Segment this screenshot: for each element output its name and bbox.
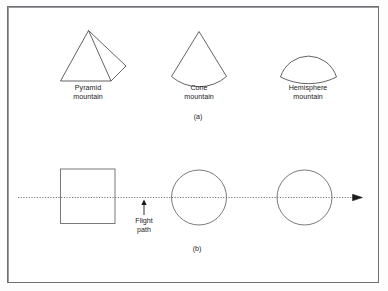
flight-path-label-line2: path bbox=[137, 226, 151, 234]
hemisphere-mountain-label: Hemispheremountain bbox=[264, 84, 352, 101]
hemisphere-mountain-label-line2: mountain bbox=[293, 93, 323, 101]
flight-path-label: Flightpath bbox=[121, 217, 167, 234]
pyramid-mountain-shape bbox=[61, 31, 127, 82]
hemisphere-mountain-label-line1: Hemisphere bbox=[289, 84, 328, 92]
flight-path-label-line1: Flight bbox=[135, 217, 152, 225]
pyramid-mountain-label: Pyramidmountain bbox=[49, 84, 127, 101]
pyramid-mountain-label-line2: mountain bbox=[73, 93, 103, 101]
cone-mountain-label: Conemountain bbox=[160, 84, 238, 101]
hemisphere-mountain-shape bbox=[281, 56, 337, 84]
cone-mountain-label-line2: mountain bbox=[184, 93, 214, 101]
figure-container: Pyramidmountain Conemountain Hemispherem… bbox=[0, 0, 388, 291]
panel-a-letter: (a) bbox=[178, 113, 218, 122]
square-footprint bbox=[61, 169, 116, 224]
flight-path-arrowhead bbox=[353, 194, 363, 201]
flight-path-pointer-arrow bbox=[141, 200, 146, 216]
pyramid-mountain-label-line1: Pyramid bbox=[75, 84, 101, 92]
cone-mountain-label-line1: Cone bbox=[190, 84, 207, 92]
panel-b-letter: (b) bbox=[177, 245, 217, 254]
cone-mountain-shape bbox=[172, 32, 227, 87]
